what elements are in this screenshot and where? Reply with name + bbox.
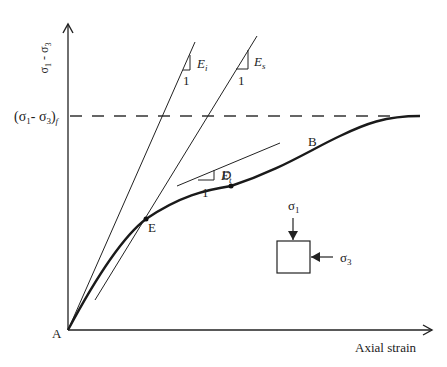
secant-modulus-run: 1 <box>238 73 245 88</box>
point-a-label: A <box>52 326 62 341</box>
secant-modulus-line <box>95 36 257 300</box>
initial-modulus-run: 1 <box>183 73 190 88</box>
initial-modulus-label: Ei <box>196 56 208 73</box>
tangent-modulus-run: 1 <box>202 185 209 200</box>
stress-strain-diagram: σ1 - σ3 (σ1- σ3)f Ei 1 Es 1 Et 1 A E D B… <box>0 0 447 367</box>
sigma3-label: σ3 <box>340 250 352 267</box>
stress-element-box <box>277 241 310 273</box>
point-b-label: B <box>308 134 317 149</box>
failure-stress-label: (σ1- σ3)f <box>14 109 60 126</box>
point-d-label: D <box>222 167 231 182</box>
point-e-label: E <box>148 220 156 235</box>
initial-modulus-line <box>68 42 195 330</box>
x-axis-label: Axial strain <box>355 340 417 355</box>
point-d-marker <box>229 184 234 189</box>
secant-modulus-label: Es <box>253 54 266 71</box>
stress-strain-curve <box>68 116 420 330</box>
y-axis-label: σ1 - σ3 <box>37 43 53 74</box>
sigma1-label: σ1 <box>288 198 300 215</box>
